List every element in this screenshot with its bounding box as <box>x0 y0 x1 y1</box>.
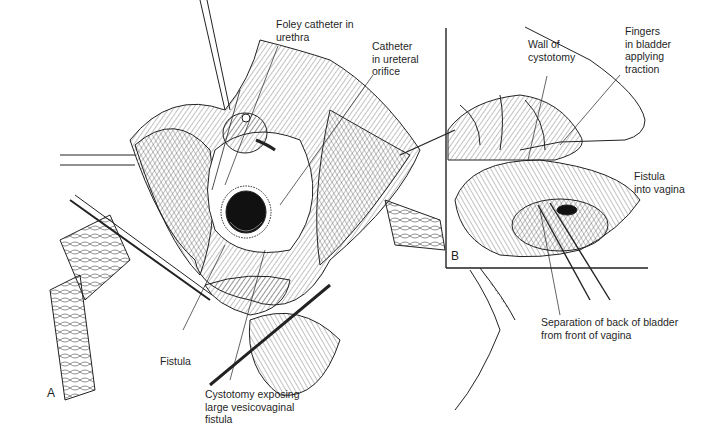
label-line: fistula <box>205 413 300 426</box>
label-cystotomy: Cystotomy exposing large vesicovaginal f… <box>205 388 300 426</box>
label-line: in ureteral <box>372 53 419 66</box>
label-line: in bladder <box>625 38 671 51</box>
label-ureteral-catheter: Catheter in ureteral orifice <box>372 40 419 78</box>
label-line: from front of vagina <box>541 329 678 342</box>
label-line: orifice <box>372 65 419 78</box>
label-foley-catheter: Foley catheter in urethra <box>276 18 354 43</box>
label-line: cystotomy <box>528 51 575 64</box>
label-line: Cystotomy exposing <box>205 388 300 401</box>
label-fistula-into-vagina: Fistula into vagina <box>634 170 685 195</box>
label-line: large vesicovaginal <box>205 401 300 414</box>
label-line: Separation of back of bladder <box>541 316 678 329</box>
label-line: Foley catheter in <box>276 18 354 31</box>
label-line: Fingers <box>625 25 671 38</box>
label-line: into vagina <box>634 183 685 196</box>
label-fistula: Fistula <box>160 355 191 368</box>
label-line: Wall of <box>528 38 575 51</box>
surgical-illustration <box>0 0 715 434</box>
label-wall-of-cystotomy: Wall of cystotomy <box>528 38 575 63</box>
label-line: Fistula <box>634 170 685 183</box>
panel-b-drawing <box>448 27 645 410</box>
label-line: urethra <box>276 31 354 44</box>
label-fingers-in-bladder: Fingers in bladder applying traction <box>625 25 671 75</box>
label-line: Catheter <box>372 40 419 53</box>
panel-letter-b: B <box>451 249 459 263</box>
label-line: traction <box>625 63 671 76</box>
panel-letter-a: A <box>47 386 55 400</box>
label-line: applying <box>625 50 671 63</box>
label-line: Fistula <box>160 355 191 368</box>
label-separation: Separation of back of bladder from front… <box>541 316 678 341</box>
